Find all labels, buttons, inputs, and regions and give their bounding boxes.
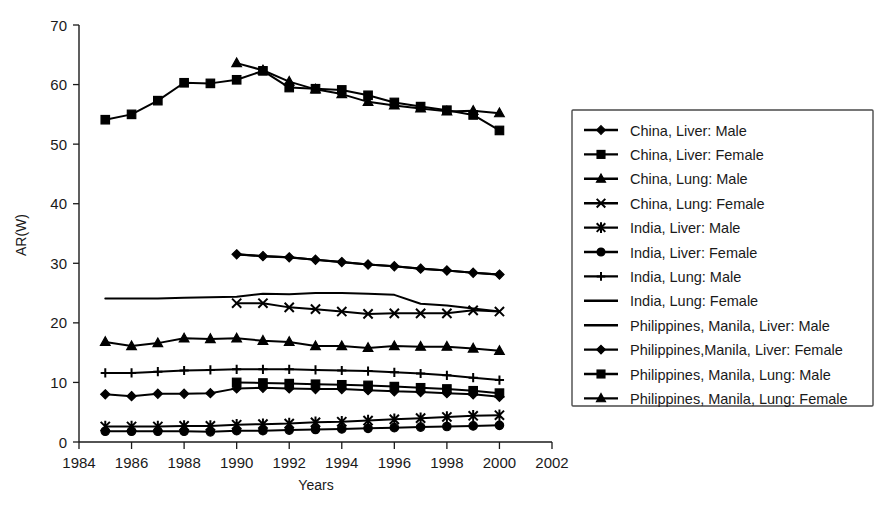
y-tick-label: 20 xyxy=(50,314,67,331)
legend-item-label: India, Lung: Male xyxy=(630,269,741,285)
legend-item-label: China, Lung: Female xyxy=(630,196,765,212)
data-point-marker xyxy=(101,115,109,123)
x-tick-label: 1986 xyxy=(115,454,148,471)
x-axis-title: Years xyxy=(298,477,333,493)
data-point-marker xyxy=(469,422,477,430)
data-point-marker xyxy=(416,423,424,431)
data-point-marker xyxy=(206,79,214,87)
y-tick-label: 0 xyxy=(59,434,67,451)
data-point-marker xyxy=(311,380,319,388)
data-point-marker xyxy=(180,79,188,87)
data-point-marker xyxy=(232,378,240,386)
data-point-marker xyxy=(232,426,240,434)
x-tick-label: 1984 xyxy=(62,454,95,471)
legend-item-label: Philippines, Manila, Liver: Male xyxy=(630,318,830,334)
y-tick-label: 30 xyxy=(50,255,67,272)
x-tick-label: 2002 xyxy=(535,454,568,471)
data-point-marker xyxy=(154,427,162,435)
data-point-marker xyxy=(469,387,477,395)
data-point-marker xyxy=(597,150,605,158)
data-point-marker xyxy=(311,425,319,433)
y-tick-label: 40 xyxy=(50,195,67,212)
legend-item-label: India, Liver: Male xyxy=(630,220,740,236)
data-point-marker xyxy=(101,427,109,435)
data-point-marker xyxy=(416,384,424,392)
legend-item-label: China, Liver: Male xyxy=(630,123,747,139)
y-tick-label: 10 xyxy=(50,374,67,391)
y-tick-label: 60 xyxy=(50,76,67,93)
data-point-marker xyxy=(364,424,372,432)
data-point-marker xyxy=(597,248,605,256)
data-point-marker xyxy=(154,96,162,104)
data-point-marker xyxy=(127,110,135,118)
data-point-marker xyxy=(285,379,293,387)
data-point-marker xyxy=(443,385,451,393)
line-chart-canvas: 010203040506070 198419861988199019921994… xyxy=(0,0,896,516)
data-point-marker xyxy=(597,370,605,378)
x-tick-label: 1990 xyxy=(220,454,253,471)
chart-legend: China, Liver: MaleChina, Liver: FemaleCh… xyxy=(572,110,873,407)
legend-item-label: China, Lung: Male xyxy=(630,171,748,187)
legend-item-label: Philippines, Manila, Lung: Male xyxy=(630,367,831,383)
data-point-marker xyxy=(364,381,372,389)
legend-item-label: Philippines, Manila, Lung: Female xyxy=(630,391,848,407)
data-point-marker xyxy=(390,423,398,431)
legend-item-label: Philippines,Manila, Liver: Female xyxy=(630,342,843,358)
x-tick-label: 1996 xyxy=(378,454,411,471)
x-tick-label: 1994 xyxy=(325,454,358,471)
data-point-marker xyxy=(390,382,398,390)
data-point-marker xyxy=(180,427,188,435)
chart-figure: 010203040506070 198419861988199019921994… xyxy=(0,0,896,516)
data-point-marker xyxy=(338,381,346,389)
legend-item-label: India, Lung: Female xyxy=(630,293,758,309)
x-tick-label: 1992 xyxy=(273,454,306,471)
y-tick-label: 70 xyxy=(50,17,67,34)
legend-item-label: China, Liver: Female xyxy=(630,147,764,163)
data-point-marker xyxy=(495,389,503,397)
y-tick-label: 50 xyxy=(50,136,67,153)
data-point-marker xyxy=(206,428,214,436)
data-point-marker xyxy=(338,425,346,433)
data-point-marker xyxy=(232,76,240,84)
data-point-marker xyxy=(259,379,267,387)
y-axis-title: AR(W) xyxy=(13,214,29,256)
data-point-marker xyxy=(127,427,135,435)
data-point-marker xyxy=(443,422,451,430)
data-point-marker xyxy=(495,421,503,429)
data-point-marker xyxy=(495,126,503,134)
x-tick-label: 1998 xyxy=(430,454,463,471)
data-point-marker xyxy=(285,426,293,434)
data-point-marker xyxy=(259,426,267,434)
x-tick-label: 1988 xyxy=(167,454,200,471)
x-tick-label: 2000 xyxy=(483,454,516,471)
legend-item-label: India, Liver: Female xyxy=(630,245,757,261)
